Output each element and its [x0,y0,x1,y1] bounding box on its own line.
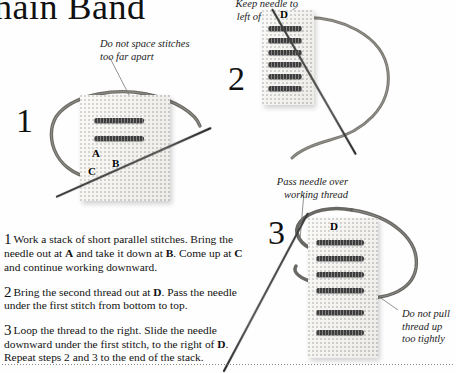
annotation-pass-needle-over: Pass needle over working thread [236,176,348,201]
diagram-2-stitch [268,38,302,43]
diagram-1-label-a: A [92,147,100,159]
diagram-3-stitch [316,256,364,261]
step-instructions: 1Work a stack of short parallel stitches… [4,222,244,371]
step-3-number: 3 [4,322,14,338]
diagram-3-stitch [316,272,364,277]
step-2-text: Bring the second thread out at D. Pass t… [4,286,237,312]
diagram-2-fabric [262,10,314,105]
diagram-2-stitch [268,86,302,91]
diagram-3-stitch [316,330,364,335]
diagram-3-label-d: D [330,220,338,232]
diagram-1-label-b: B [112,157,119,169]
step-1-text: Work a stack of short parallel stitches.… [4,233,243,272]
diagram-3-stitch [316,310,364,315]
step-2-number: 2 [4,284,14,300]
diagram-1-label-c: C [88,165,96,177]
diagram-2-stitch [268,62,302,67]
diagram-3-stitch [316,240,364,245]
diagram-1-stitch [94,118,144,123]
step-1: 1Work a stack of short parallel stitches… [4,233,244,274]
step-2: 2Bring the second thread out at D. Pass … [4,286,244,313]
diagram-2-numeral: 2 [228,62,245,96]
annotation-do-not-space-stitches: Do not space stitches too far apart [100,38,220,63]
diagram-2-label-d: D [280,8,288,20]
instruction-page: hain Band Do not space stitches too far … [0,0,456,373]
page-title: hain Band [0,0,145,28]
diagram-1-numeral: 1 [16,104,33,138]
diagram-2-stitch [268,74,302,79]
section-divider [2,364,454,365]
annotation-do-not-pull-tight: Do not pull thread up too tightly [402,308,456,346]
step-1-number: 1 [4,231,14,247]
step-3-text: Loop the thread to the right. Slide the … [4,324,228,363]
diagram-1-stitch [94,136,144,141]
step-3: 3Loop the thread to the right. Slide the… [4,324,244,365]
diagram-3-numeral: 3 [268,216,285,250]
diagram-3-stitch [316,288,364,293]
